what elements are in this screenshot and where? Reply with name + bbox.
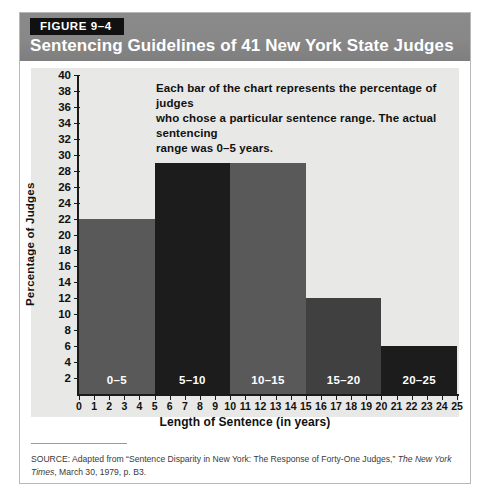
y-tick-label: 22 (47, 213, 71, 225)
y-tick-label: 38 (47, 85, 71, 97)
x-tick-mark (321, 396, 322, 400)
source-prefix: SOURCE: Adapted from “Sentence Disparity… (31, 454, 398, 464)
x-tick-mark (94, 396, 95, 400)
bar-5-10[interactable]: 5–10 (155, 163, 231, 394)
figure-card: FIGURE 9–4 Sentencing Guidelines of 41 N… (19, 12, 471, 484)
x-tick-mark (366, 396, 367, 400)
x-tick-mark (442, 396, 443, 400)
annotation-line-2: who chose a particular sentence range. T… (156, 111, 470, 141)
y-tick-label: 16 (47, 260, 71, 272)
x-tick-mark (185, 396, 186, 400)
x-tick-mark (170, 396, 171, 400)
x-tick-mark (260, 396, 261, 400)
x-tick-mark (412, 396, 413, 400)
y-tick-label: 20 (47, 229, 71, 241)
x-tick-mark (351, 396, 352, 400)
source-note: SOURCE: Adapted from “Sentence Disparity… (31, 453, 456, 478)
y-tick-label: 8 (47, 324, 71, 336)
figure-header: FIGURE 9–4 Sentencing Guidelines of 41 N… (20, 13, 470, 61)
y-tick-label: 34 (47, 117, 71, 129)
bar-label: 20–25 (381, 374, 457, 386)
bar-15-20[interactable]: 15–20 (306, 298, 382, 394)
y-tick-label: 28 (47, 165, 71, 177)
y-tick-label: 30 (47, 149, 71, 161)
x-tick-mark (306, 396, 307, 400)
source-suffix: , March 30, 1979, p. B3. (54, 467, 146, 477)
x-tick-mark (230, 396, 231, 400)
source-divider (31, 443, 127, 444)
y-tick-label: 2 (47, 372, 71, 384)
x-tick-mark (245, 396, 246, 400)
chart-annotation: Each bar of the chart represents the per… (156, 81, 470, 156)
annotation-line-1: Each bar of the chart represents the per… (156, 81, 470, 111)
x-tick-mark (336, 396, 337, 400)
y-tick-label: 4 (47, 356, 71, 368)
bar-label: 5–10 (155, 374, 231, 386)
bar-20-25[interactable]: 20–25 (381, 346, 457, 394)
bar-10-15[interactable]: 10–15 (230, 163, 306, 394)
x-tick-mark (276, 396, 277, 400)
y-axis-line (77, 75, 79, 396)
y-tick-label: 14 (47, 276, 71, 288)
y-tick-label: 40 (47, 69, 71, 81)
y-tick-label: 24 (47, 197, 71, 209)
figure-number-badge: FIGURE 9–4 (30, 18, 124, 35)
bar-label: 0–5 (79, 374, 155, 386)
x-tick-mark (381, 396, 382, 400)
x-tick-mark (427, 396, 428, 400)
y-tick-label: 12 (47, 292, 71, 304)
y-tick-label: 36 (47, 101, 71, 113)
bar-label: 10–15 (230, 374, 306, 386)
x-tick-mark (139, 396, 140, 400)
y-tick-label: 6 (47, 340, 71, 352)
x-tick-mark (397, 396, 398, 400)
x-axis-title: Length of Sentence (in years) (20, 415, 470, 429)
x-tick-mark (291, 396, 292, 400)
y-tick-label: 10 (47, 308, 71, 320)
bar-label: 15–20 (306, 374, 382, 386)
x-axis-line (77, 394, 459, 396)
x-tick-label: 25 (448, 400, 466, 412)
x-tick-mark (109, 396, 110, 400)
x-tick-mark (457, 396, 458, 400)
x-tick-mark (155, 396, 156, 400)
bar-0-5[interactable]: 0–5 (79, 219, 155, 394)
annotation-line-3: range was 0–5 years. (156, 141, 470, 156)
y-axis-title: Percentage of Judges (24, 119, 40, 369)
y-tick-label: 32 (47, 133, 71, 145)
y-tick-label: 18 (47, 244, 71, 256)
x-tick-mark (79, 396, 80, 400)
x-tick-mark (215, 396, 216, 400)
figure-title: Sentencing Guidelines of 41 New York Sta… (30, 36, 454, 56)
chart-area: Percentage of Judges 2468101214161820222… (20, 61, 470, 439)
y-tick-label: 26 (47, 181, 71, 193)
x-tick-mark (124, 396, 125, 400)
x-tick-mark (200, 396, 201, 400)
